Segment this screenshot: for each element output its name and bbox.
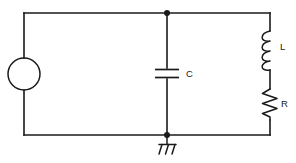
resistor-label: R [281, 98, 288, 109]
inductor-label: L [280, 41, 285, 52]
ground-hatch-3 [172, 145, 175, 155]
capacitor-label: C [186, 68, 193, 79]
inductor-coil-symbol [262, 31, 270, 70]
resistor-zigzag-symbol [263, 89, 278, 120]
voltage-source-symbol [8, 58, 40, 90]
schematic-canvas: C L R [0, 0, 296, 163]
ground-hatch-2 [166, 145, 169, 155]
circuit-schematic: C L R [0, 0, 296, 163]
ground-hatch-1 [159, 145, 162, 155]
top-junction-node [164, 10, 170, 16]
